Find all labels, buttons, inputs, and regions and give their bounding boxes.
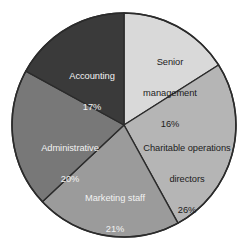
pie-chart-canvas	[0, 0, 252, 245]
pie-chart: Senior management 16% Charitable operati…	[0, 0, 252, 245]
pie-slice-group	[12, 13, 236, 237]
